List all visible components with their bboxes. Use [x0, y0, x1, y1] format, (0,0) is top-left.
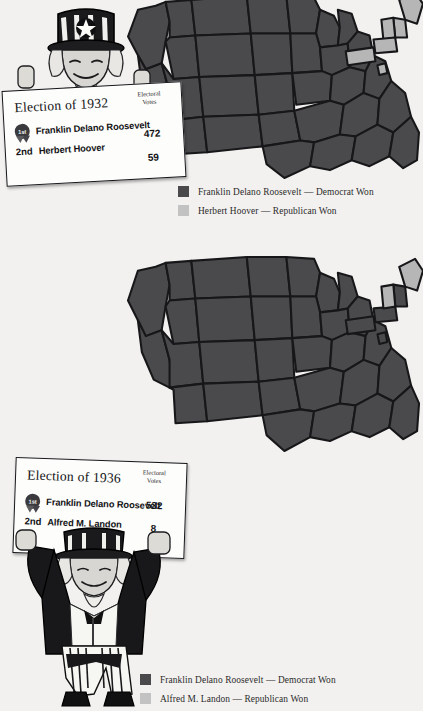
rank-label-second-1936: 2nd: [24, 515, 41, 527]
rank-label-second-1932: 2nd: [16, 145, 33, 157]
legend-label-democrat-1936: Franklin Delano Roosevelt — Democrat Won: [160, 675, 336, 685]
ev-header-line2: Votes: [142, 98, 156, 106]
candidate-name-second-1932: Herbert Hoover: [38, 142, 105, 156]
legend-1936: Franklin Delano Roosevelt — Democrat Won…: [140, 674, 336, 711]
card-title-1936: Election of 1936: [27, 467, 121, 486]
legend-swatch-democrat-icon: [178, 186, 189, 197]
legend-swatch-republican-icon: [140, 693, 151, 704]
rank-badge-first-1932: 1st: [14, 123, 30, 139]
election-card-1932: Election of 1932 Electoral Votes 1st Fra…: [2, 81, 187, 187]
map-states-1936: [128, 257, 423, 451]
uncle-sam-hat-icon: [48, 9, 124, 56]
legend-item-republican-1932: Herbert Hoover — Republican Won: [178, 205, 374, 216]
electoral-votes-header-1936: Electoral Votes: [132, 468, 177, 486]
legend-item-democrat-1936: Franklin Delano Roosevelt — Democrat Won: [140, 674, 336, 685]
legend-label-democrat-1932: Franklin Delano Roosevelt — Democrat Won: [198, 187, 374, 197]
uncle-sam-legs-icon: [62, 646, 134, 706]
electoral-votes-second-1932: 59: [130, 151, 177, 164]
ev-header-line2: Votes: [147, 477, 161, 484]
ev-header-line1: Electoral: [143, 468, 166, 476]
legend-label-republican-1932: Herbert Hoover — Republican Won: [198, 206, 337, 216]
ev-header-line1: Electoral: [137, 89, 160, 97]
card-title-1932: Election of 1932: [14, 95, 109, 116]
legend-item-republican-1936: Alfred M. Landon — Republican Won: [140, 693, 336, 704]
election-panel-1936: Election of 1936 Electoral Votes 1st Fra…: [0, 228, 423, 491]
rank-badge-first-1936: 1st: [25, 493, 41, 509]
electoral-votes-header-1932: Electoral Votes: [127, 89, 172, 107]
electoral-votes-first-1936: 532: [131, 499, 177, 512]
election-panel-1932: Election of 1932 Electoral Votes 1st Fra…: [0, 0, 423, 228]
legend-swatch-republican-icon: [178, 205, 189, 216]
uncle-sam-hand-left-icon: [18, 66, 34, 88]
us-map-1936: [126, 240, 423, 458]
legend-1932: Franklin Delano Roosevelt — Democrat Won…: [178, 186, 374, 224]
legend-label-republican-1936: Alfred M. Landon — Republican Won: [160, 694, 308, 704]
legend-swatch-democrat-icon: [140, 674, 151, 685]
legend-item-democrat-1932: Franklin Delano Roosevelt — Democrat Won: [178, 186, 374, 197]
